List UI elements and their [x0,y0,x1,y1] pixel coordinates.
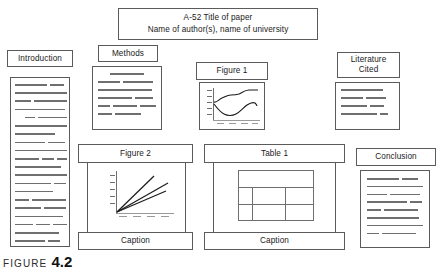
text-line [341,105,396,107]
section-body-figure-2 [87,163,186,233]
section-body-methods [92,66,162,130]
figure-caption-word: FIGURE [3,258,47,269]
poster-title-line-1: A-52 Title of paper [184,12,253,23]
text-line [367,240,425,242]
figure-caption: FIGURE 4.2 [3,253,72,270]
literature-cited-text-lines [341,89,396,123]
text-line [367,178,425,180]
text-line [98,121,158,123]
text-line [15,199,67,201]
text-line [15,216,67,218]
conclusion-text-lines [367,178,425,242]
figure-2-chart [102,171,178,225]
section-caption-figure-2: Caption [78,232,193,250]
text-line [15,133,67,135]
figure-caption-number: 4.2 [51,253,72,270]
text-line [367,225,425,227]
section-caption-table-1: Caption [204,232,345,250]
text-line [15,166,67,168]
figure-1-chart [200,83,264,129]
text-line [98,73,158,75]
section-body-introduction [10,77,70,247]
text-line [98,113,158,115]
text-line [15,109,67,111]
methods-text-lines [98,73,158,123]
text-line [15,125,67,127]
text-line [98,81,158,83]
text-line [341,121,396,123]
text-line [98,89,158,91]
section-header-figure-2: Figure 2 [78,144,193,163]
text-line [15,92,67,94]
text-line [15,84,67,86]
section-header-figure-1: Figure 1 [196,62,268,80]
text-line [367,201,425,203]
figure-1-series-paths [200,83,264,129]
text-line [15,100,67,102]
section-body-literature-cited [335,82,400,130]
section-body-figure-1 [199,82,265,130]
series-shallow-ray [117,191,166,212]
table-1-grid [238,170,314,221]
text-line [15,191,67,193]
figure-2-series-paths [102,171,178,225]
text-line [15,183,67,185]
text-line [15,232,67,234]
section-body-table-1 [213,163,336,233]
text-line [15,207,67,209]
text-line [367,209,425,211]
text-line [367,217,425,219]
text-line [367,194,425,196]
text-line [15,117,67,119]
table-row-divider [239,187,313,188]
section-header-conclusion: Conclusion [356,148,436,166]
text-line [98,105,158,107]
figure-4-2-poster-layout: A-52 Title of paper Name of author(s), n… [0,0,442,275]
text-line [341,89,396,91]
section-header-introduction: Introduction [7,50,73,67]
section-body-conclusion [360,170,430,248]
text-line [15,150,67,152]
text-line [15,240,67,242]
text-line [341,113,396,115]
poster-title-line-2: Name of author(s), name of university [148,24,289,35]
text-line [341,97,396,99]
section-header-methods: Methods [98,45,158,62]
section-header-literature-cited: Literature Cited [337,52,400,78]
literature-cited-line-2: Cited [359,65,379,75]
series-upper-wavy-curve [214,90,258,102]
table-row-divider [239,204,313,205]
text-line [367,186,425,188]
series-lower-u-curve [214,103,257,116]
poster-title-box: A-52 Title of paper Name of author(s), n… [118,8,318,40]
text-line [15,224,67,226]
text-line [367,233,425,235]
text-line [15,174,67,176]
section-header-table-1: Table 1 [204,144,345,163]
literature-cited-line-1: Literature [351,55,387,65]
text-line [15,158,67,160]
text-line [15,142,67,144]
table-column-divider [285,187,286,220]
table-column-divider [252,187,253,220]
introduction-text-lines [15,84,67,242]
text-line [98,97,158,99]
